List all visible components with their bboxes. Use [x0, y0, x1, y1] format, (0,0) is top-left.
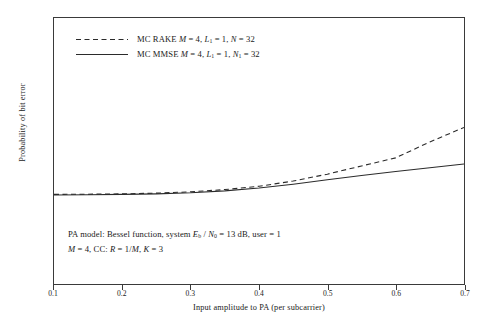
x-axis-label: Input amplitude to PA (per subcarrier)	[53, 303, 465, 312]
chart-annotation: PA model: Bessel function, system Eb / N…	[68, 228, 281, 255]
annotation-line-2: M = 4, CC: R = 1/M, K = 3	[68, 243, 281, 256]
legend-swatch-dashed-line	[76, 35, 128, 44]
chart-legend: MC RAKE M = 4, L1 = 1, N = 32 MC MMSE M …	[76, 33, 260, 61]
series-line-mc-rake	[54, 127, 464, 194]
x-tick-label: 0.2	[102, 289, 142, 298]
x-tick-label: 0.3	[170, 289, 210, 298]
legend-entry-mc-rake: MC RAKE M = 4, L1 = 1, N = 32	[76, 33, 260, 46]
x-tick-label: 0.4	[239, 289, 279, 298]
x-tick-label: 0.5	[308, 289, 348, 298]
legend-label-mc-mmse: MC MMSE M = 4, L1 = 1, N1 = 32	[137, 49, 260, 59]
legend-swatch-solid-line	[76, 50, 128, 59]
x-tick-label: 0.1	[33, 289, 73, 298]
y-axis-label: Probability of bit error	[18, 13, 27, 233]
x-tick-label: 0.6	[376, 289, 416, 298]
legend-label-mc-rake: MC RAKE M = 4, L1 = 1, N = 32	[137, 34, 255, 44]
series-line-mc-mmse	[54, 164, 464, 195]
annotation-line-1: PA model: Bessel function, system Eb / N…	[68, 228, 281, 243]
legend-entry-mc-mmse: MC MMSE M = 4, L1 = 1, N1 = 32	[76, 48, 260, 61]
x-tick-label: 0.7	[445, 289, 485, 298]
chart-figure: Probability of bit error 100 10-3 10-6 0…	[0, 0, 495, 326]
